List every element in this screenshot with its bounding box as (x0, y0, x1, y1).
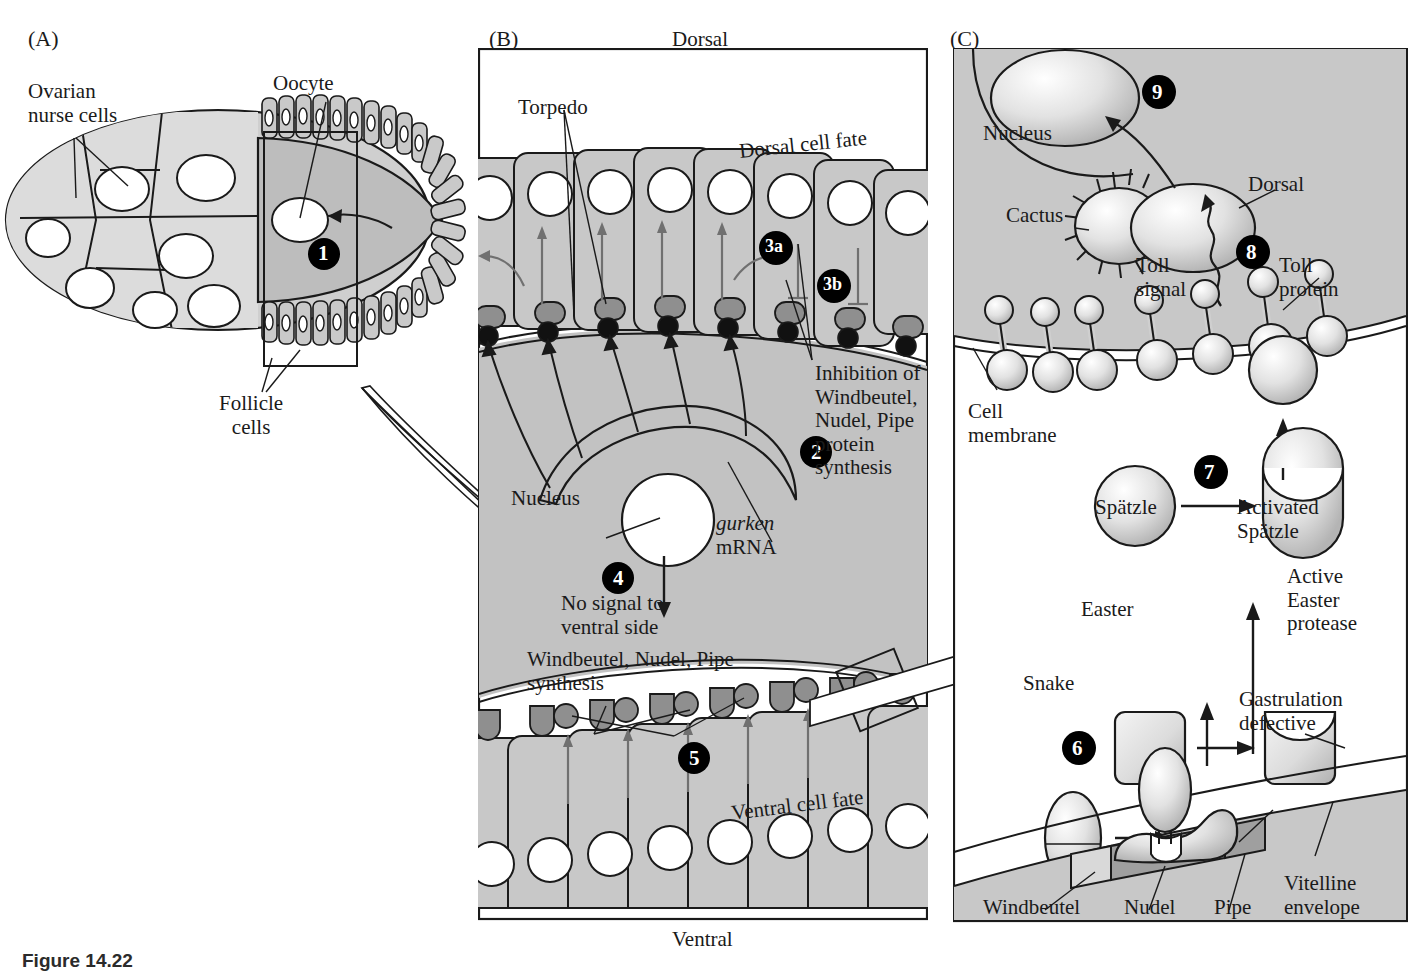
inhibition-label: Inhibition of Windbeutel, Nudel, Pipe pr… (815, 362, 921, 480)
nudel-label-c: Nudel (1124, 896, 1175, 920)
cell-membrane-label: Cell membrane (968, 400, 1057, 447)
step-7-number: 7 (1204, 461, 1215, 485)
dorsal-label-c: Dorsal (1248, 173, 1304, 197)
panel-c-drawing (953, 48, 1408, 928)
windbeutel-block (1071, 846, 1111, 888)
toll-protein-label: Toll protein (1279, 254, 1338, 301)
active-easter-label: Active Easter protease (1287, 565, 1357, 636)
ovarian-nurse-cells-label: Ovarian nurse cells (28, 80, 117, 127)
easter-label: Easter (1081, 598, 1133, 622)
gastrulation-defective-label: Gastrulation defective (1239, 688, 1343, 735)
torpedo-label: Torpedo (518, 96, 588, 120)
no-signal-label: No signal to ventral side (561, 592, 664, 639)
step-6-number: 6 (1072, 737, 1083, 761)
oocyte-nucleus (272, 198, 328, 242)
follicle-cells-label: Follicle cells (219, 392, 283, 439)
vitelline-envelope-label: Vitelline envelope (1284, 872, 1360, 919)
oocyte-label: Oocyte (273, 72, 334, 96)
gurken-label: gurken (716, 512, 774, 536)
activated-spatzle-label: Activated Spätzle (1237, 496, 1319, 543)
step-4-number: 4 (613, 567, 624, 591)
bound-activated-spatzle (1249, 336, 1317, 404)
wnp-synthesis-label: Windbeutel, Nudel, Pipe synthesis (527, 648, 734, 695)
step-3b-number: 3b (823, 274, 842, 294)
step-1-number: 1 (318, 242, 329, 266)
mrna-label: mRNA (716, 536, 777, 560)
snake-label: Snake (1023, 672, 1074, 696)
ventral-axis-label: Ventral (672, 928, 733, 952)
toll-signal-label: Toll signal (1136, 254, 1186, 301)
step-8-number: 8 (1246, 241, 1257, 265)
cactus-label: Cactus (1006, 204, 1063, 228)
oocyte-nucleus-b (622, 474, 714, 566)
nucleus-label-b: Nucleus (511, 487, 580, 511)
step-9-number: 9 (1152, 81, 1163, 105)
nucleus-label-c: Nucleus (983, 122, 1052, 146)
step-3a-number: 3a (765, 236, 783, 256)
step-5-number: 5 (689, 747, 700, 771)
spatzle-label: Spätzle (1095, 496, 1157, 520)
windbeutel-label-c: Windbeutel (983, 896, 1080, 920)
gd-upper-lobe (1139, 748, 1191, 832)
pipe-label-c: Pipe (1214, 896, 1251, 920)
figure-caption-label: Figure 14.22 (22, 950, 133, 972)
